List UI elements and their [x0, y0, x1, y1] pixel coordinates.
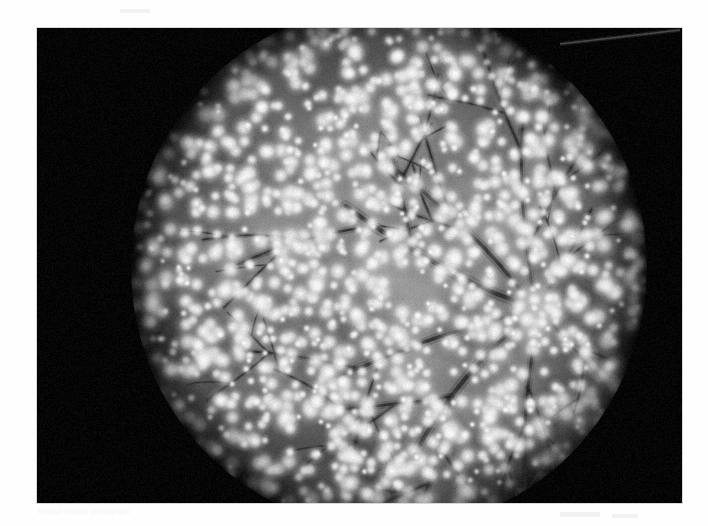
page-root: Retinal fundus photograph [0, 0, 708, 526]
paper-speckle-c [120, 9, 150, 13]
paper-speckle-b [612, 514, 638, 518]
fundus-photograph [37, 28, 682, 503]
paper-speckle-a [560, 512, 600, 517]
photo-title: Retinal fundus photograph [38, 508, 130, 515]
fundus-image-canvas [37, 28, 682, 503]
